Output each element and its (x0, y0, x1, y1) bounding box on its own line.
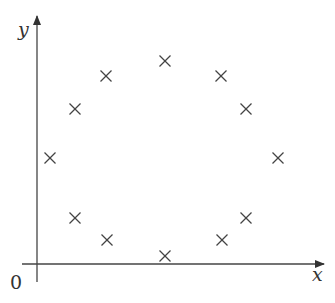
cross-marker-icon (241, 213, 252, 224)
cross-marker-icon (160, 251, 171, 262)
scatter-diagram: y x 0 (0, 0, 335, 303)
cross-marker-icon (216, 71, 227, 82)
cross-marker-icon (241, 104, 252, 115)
origin-label: 0 (10, 271, 22, 293)
markers-group (45, 56, 284, 262)
cross-marker-icon (101, 71, 112, 82)
cross-marker-icon (273, 153, 284, 164)
cross-marker-icon (70, 213, 81, 224)
cross-marker-icon (217, 235, 228, 246)
y-axis-label: y (17, 18, 29, 40)
x-axis-label: x (312, 263, 323, 285)
cross-marker-icon (102, 235, 113, 246)
cross-marker-icon (70, 104, 81, 115)
cross-marker-icon (45, 153, 56, 164)
cross-marker-icon (160, 56, 171, 67)
